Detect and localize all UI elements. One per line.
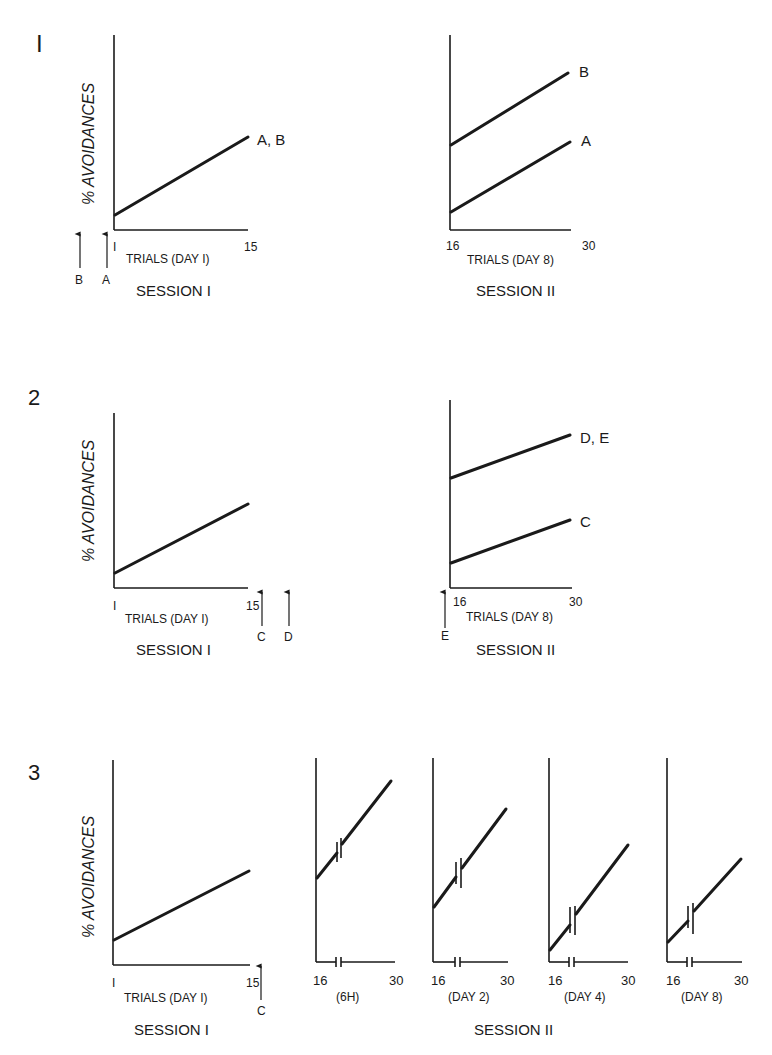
marker-label-e: E: [441, 629, 449, 643]
x-tick-end: 30: [389, 973, 403, 988]
session-label: SESSION II: [474, 1021, 553, 1038]
x-tick-end: 30: [621, 973, 635, 988]
x-axis-label: TRIALS (DAY 8): [467, 253, 554, 267]
y-axis-label: % AVOIDANCES: [80, 83, 97, 205]
line-segment: [342, 781, 391, 844]
line-segment: [462, 809, 506, 868]
marker-label-c: C: [257, 1004, 266, 1018]
fig1-session1-panel: % AVOIDANCES A, B I 15 TRIALS (DAY I) SE…: [75, 35, 285, 299]
fig2-session2-panel: D, E C 16 30 TRIALS (DAY 8) SESSION II E: [441, 400, 609, 658]
line-segment: [694, 859, 741, 911]
session-label: SESSION II: [476, 282, 555, 299]
y-axis-label: % AVOIDANCES: [80, 440, 97, 562]
line-segment: [550, 925, 570, 950]
x-tick-start: 16: [453, 595, 467, 609]
figure-number: I: [36, 30, 43, 57]
line-label-de: D, E: [580, 429, 609, 446]
session-label: SESSION I: [136, 282, 211, 299]
y-axis-label: % AVOIDANCES: [80, 816, 97, 938]
x-axis-label: TRIALS (DAY I): [124, 991, 208, 1005]
line-ab: [115, 137, 248, 215]
figure-2: 2 % AVOIDANCES I 15 TRIALS (DAY I) SESSI…: [28, 385, 609, 658]
x-tick-start: 16: [666, 973, 680, 988]
marker-label-c: C: [257, 630, 266, 644]
fig3-small-panel-6h: 16 30 (6H): [313, 758, 403, 1004]
marker-label-d: D: [284, 630, 293, 644]
x-axis-label: TRIALS (DAY 8): [466, 610, 553, 624]
figure-1: I % AVOIDANCES A, B I 15 TRIALS (DAY I) …: [36, 30, 596, 299]
figure-number: 3: [28, 760, 40, 785]
session-label: SESSION II: [476, 641, 555, 658]
x-tick-start: I: [113, 599, 116, 613]
marker-label-a: A: [102, 273, 110, 287]
x-tick-end: 30: [500, 973, 514, 988]
x-tick-end: 30: [569, 595, 583, 609]
x-axis-label: (6H): [336, 990, 359, 1004]
x-tick-start: 16: [446, 239, 460, 253]
x-axis-label: (DAY 2): [448, 990, 490, 1004]
fig3-session1-panel: % AVOIDANCES I 15 TRIALS (DAY I) SESSION…: [80, 760, 266, 1038]
session-label: SESSION I: [136, 641, 211, 658]
line-segment: [576, 845, 628, 914]
figure-number: 2: [28, 385, 40, 410]
marker-label-b: B: [75, 273, 83, 287]
x-tick-end: 15: [246, 599, 260, 613]
x-tick-start: 16: [431, 973, 445, 988]
x-tick-start: 16: [548, 973, 562, 988]
fig3-small-panel-day4: 16 30 (DAY 4): [548, 758, 635, 1004]
line-b: [451, 73, 568, 145]
line: [114, 871, 249, 940]
line-a: [451, 142, 570, 212]
x-tick-start: I: [113, 240, 116, 254]
x-axis-label: (DAY 4): [564, 990, 606, 1004]
x-tick-end: 30: [734, 973, 748, 988]
fig2-session1-panel: % AVOIDANCES I 15 TRIALS (DAY I) SESSION…: [80, 413, 293, 658]
line-label-a: A: [581, 132, 591, 149]
line: [115, 504, 248, 573]
x-tick-end: 30: [582, 239, 596, 253]
line-label-c: C: [580, 513, 591, 530]
line-segment: [434, 877, 456, 907]
figure-canvas: I % AVOIDANCES A, B I 15 TRIALS (DAY I) …: [0, 0, 772, 1055]
x-tick-start: 16: [313, 973, 327, 988]
line-label-ab: A, B: [257, 131, 285, 148]
line-c: [451, 520, 570, 563]
x-axis-label: TRIALS (DAY I): [125, 612, 209, 626]
x-axis-label: TRIALS (DAY I): [126, 252, 210, 266]
line-de: [451, 435, 570, 478]
session-label: SESSION I: [134, 1021, 209, 1038]
figure-3: 3 % AVOIDANCES I 15 TRIALS (DAY I) SESSI…: [28, 758, 748, 1038]
line-segment: [317, 853, 337, 878]
x-axis-label: (DAY 8): [681, 990, 723, 1004]
line-segment: [668, 921, 688, 942]
line-label-b: B: [579, 63, 589, 80]
x-tick-end: 15: [246, 976, 260, 990]
fig3-small-panel-day8: 16 30 (DAY 8): [666, 758, 748, 1004]
fig1-session2-panel: B A 16 30 TRIALS (DAY 8) SESSION II: [446, 35, 596, 299]
x-tick-start: I: [112, 976, 115, 990]
fig3-small-panel-day2: 16 30 (DAY 2): [431, 758, 514, 1004]
x-tick-end: 15: [244, 240, 258, 254]
